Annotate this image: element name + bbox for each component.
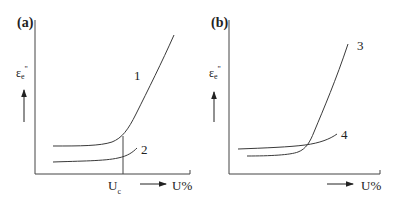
panel-b-curve-4	[238, 134, 337, 149]
panel-b-y-label-sup: "	[218, 65, 221, 74]
panel-a-uc-main: U	[108, 178, 117, 193]
panel-b-x-label: U%	[361, 179, 381, 192]
panel-a-curve-2	[53, 148, 137, 162]
panel-b-curve-3-label: 3	[357, 39, 364, 52]
panel-a-plot	[24, 20, 190, 184]
panel-a-y-label-sup: "	[25, 65, 28, 74]
panel-b-tag: (b)	[211, 16, 228, 30]
panel-a-curve-1	[53, 35, 174, 146]
panel-a-uc-label: Uc	[108, 179, 121, 196]
diagram-canvas	[0, 0, 399, 203]
panel-a-y-label: εe"	[16, 66, 28, 81]
panel-a-uc-sub: c	[117, 187, 121, 196]
panel-a-tag: (a)	[17, 16, 33, 30]
panel-a-x-label: U%	[172, 179, 192, 192]
panel-b-curve-4-label: 4	[341, 128, 348, 141]
panel-b-curve-3	[247, 44, 348, 156]
panel-b-y-label: εe"	[209, 66, 221, 81]
panel-b-plot	[214, 20, 380, 184]
panel-a-curve-2-label: 2	[141, 143, 148, 156]
panel-a-curve-1-label: 1	[134, 69, 141, 82]
